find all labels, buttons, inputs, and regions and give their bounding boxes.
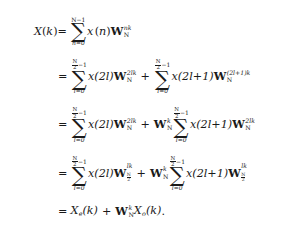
odd-dft-term: Xo(k) bbox=[134, 205, 162, 217]
factored-twiddle-subscript: N bbox=[163, 174, 168, 180]
twiddle-subsup-half: lk N 2 bbox=[127, 163, 133, 182]
twiddle-subsup: nk N bbox=[124, 25, 132, 38]
twiddle-subscript-half: N 2 bbox=[127, 171, 131, 183]
even-summand-function: x(2l) bbox=[88, 71, 114, 82]
twiddle-factor-W: W bbox=[114, 119, 127, 130]
factored-twiddle-subsup: k N bbox=[167, 118, 172, 131]
factored-twiddle-subscript: N bbox=[167, 125, 172, 131]
factored-twiddle-W: W bbox=[115, 206, 128, 217]
summation-operator-even: N 2 −1 ∑ l=0 bbox=[71, 156, 87, 191]
sum-lower-limit: l=0 bbox=[74, 185, 85, 191]
sigma-icon: ∑ bbox=[155, 71, 170, 88]
even-summand-function: x(2l) bbox=[88, 168, 114, 179]
equation-line-4: = N 2 −1 ∑ l=0 x(2l) W lk N 2 bbox=[10, 156, 295, 191]
sentence-terminator: . bbox=[161, 206, 165, 217]
lhs-X-of-k: X(k) bbox=[34, 26, 58, 37]
factored-twiddle-W: W bbox=[154, 119, 167, 130]
twiddle-factor-W: W bbox=[114, 71, 127, 82]
summation-operator-even: N 2 −1 ∑ l=0 bbox=[71, 59, 87, 94]
twiddle-factor-W: W bbox=[114, 168, 127, 179]
sum-lower-limit: l=0 bbox=[74, 137, 85, 143]
summation-operator-odd: N 2 −1 ∑ l=0 bbox=[173, 107, 189, 142]
plus-sign: + bbox=[140, 119, 149, 130]
sum-lower-limit: l=0 bbox=[172, 185, 183, 191]
plus-sign: + bbox=[102, 206, 111, 217]
sigma-icon: ∑ bbox=[72, 167, 87, 184]
twiddle-subscript: N bbox=[127, 77, 132, 83]
equation-line-2: = N 2 −1 ∑ l=0 x(2l) W 2lk N + N bbox=[10, 59, 295, 94]
odd-summand-function: x(2l+1) bbox=[171, 71, 213, 82]
equals-sign: = bbox=[58, 71, 67, 82]
factored-twiddle-W: W bbox=[150, 168, 163, 179]
twiddle-subsup: 2lk N bbox=[127, 70, 137, 83]
fraction-N-over-2: N 2 bbox=[241, 173, 245, 183]
twiddle-subsup: 2lk N bbox=[127, 118, 137, 131]
equation-block: X(k) = N−1 ∑ n=0 x(n) W nk N = N 2 −1 ∑ … bbox=[0, 0, 299, 239]
twiddle-factor-W: W bbox=[228, 168, 241, 179]
equals-sign: = bbox=[58, 26, 67, 37]
twiddle-subscript: N bbox=[245, 125, 250, 131]
factored-twiddle-exponent: k bbox=[163, 166, 167, 172]
twiddle-exponent: lk bbox=[241, 163, 247, 169]
equals-sign: = bbox=[58, 206, 67, 217]
sum-lower-limit: l=0 bbox=[157, 88, 168, 94]
summation-operator: N−1 ∑ n=0 bbox=[71, 17, 86, 46]
fraction-N-over-2: N 2 bbox=[127, 173, 131, 183]
twiddle-subscript: N bbox=[124, 32, 129, 38]
twiddle-factor-W: W bbox=[232, 119, 245, 130]
twiddle-subsup-half: lk N 2 bbox=[241, 163, 247, 182]
sum-lower-limit: l=0 bbox=[176, 137, 187, 143]
plus-sign: + bbox=[137, 168, 146, 179]
twiddle-subsup: 2lk N bbox=[245, 118, 255, 131]
odd-summand-function: x(2l+1) bbox=[190, 119, 232, 130]
summation-operator-odd: N 2 −1 ∑ l=0 bbox=[169, 156, 185, 191]
twiddle-subscript-half: N 2 bbox=[241, 171, 245, 183]
twiddle-factor-W: W bbox=[214, 71, 227, 82]
plus-sign: + bbox=[140, 71, 149, 82]
even-dft-term: Xe(k) bbox=[70, 205, 98, 217]
twiddle-subscript: N bbox=[227, 77, 232, 83]
equals-sign: = bbox=[58, 168, 67, 179]
sigma-icon: ∑ bbox=[71, 23, 86, 40]
summation-operator-even: N 2 −1 ∑ l=0 bbox=[71, 107, 87, 142]
sigma-icon: ∑ bbox=[174, 119, 189, 136]
sum-lower-limit: n=0 bbox=[72, 40, 85, 46]
odd-summand-function: x(2l+1) bbox=[186, 168, 228, 179]
even-summand-function: x(2l) bbox=[88, 119, 114, 130]
sigma-icon: ∑ bbox=[72, 71, 87, 88]
equals-sign: = bbox=[58, 119, 67, 130]
sigma-icon: ∑ bbox=[170, 167, 185, 184]
summation-operator-odd: N 2 −1 ∑ l=0 bbox=[155, 59, 171, 94]
twiddle-subsup: (2l+1)k N bbox=[227, 70, 251, 83]
twiddle-factor-W: W bbox=[111, 26, 124, 37]
sigma-icon: ∑ bbox=[72, 119, 87, 136]
equation-line-3: = N 2 −1 ∑ l=0 x(2l) W 2lk N + W k N bbox=[10, 107, 295, 142]
factored-twiddle-subsup: k N bbox=[163, 166, 168, 179]
factored-twiddle-exponent: k bbox=[128, 205, 132, 211]
summand-function: x(n) bbox=[87, 26, 111, 37]
sum-lower-limit: l=0 bbox=[74, 88, 85, 94]
twiddle-subscript: N bbox=[127, 125, 132, 131]
equation-line-1: X(k) = N−1 ∑ n=0 x(n) W nk N bbox=[10, 17, 295, 46]
twiddle-exponent: lk bbox=[127, 163, 133, 169]
equation-line-5: = Xe(k) + W k N Xo(k) . bbox=[10, 205, 295, 218]
